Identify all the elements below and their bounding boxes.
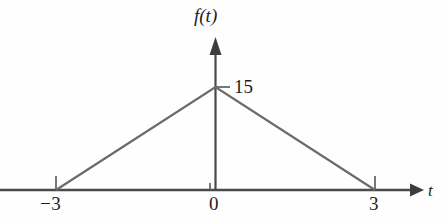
x-tick-label-origin: 0 (209, 194, 219, 213)
peak-value-label: 15 (234, 77, 253, 96)
triangular-pulse-figure: f(t) t 15 −3 0 3 (0, 0, 444, 223)
y-axis-arrow-icon (210, 37, 222, 55)
y-axis-label: f(t) (194, 6, 217, 25)
figure-canvas (0, 0, 444, 223)
x-axis-label: t (428, 182, 433, 199)
x-axis-arrow-icon (410, 184, 424, 197)
x-tick-label-minus3: −3 (40, 194, 61, 213)
x-tick-label-3: 3 (369, 194, 379, 213)
